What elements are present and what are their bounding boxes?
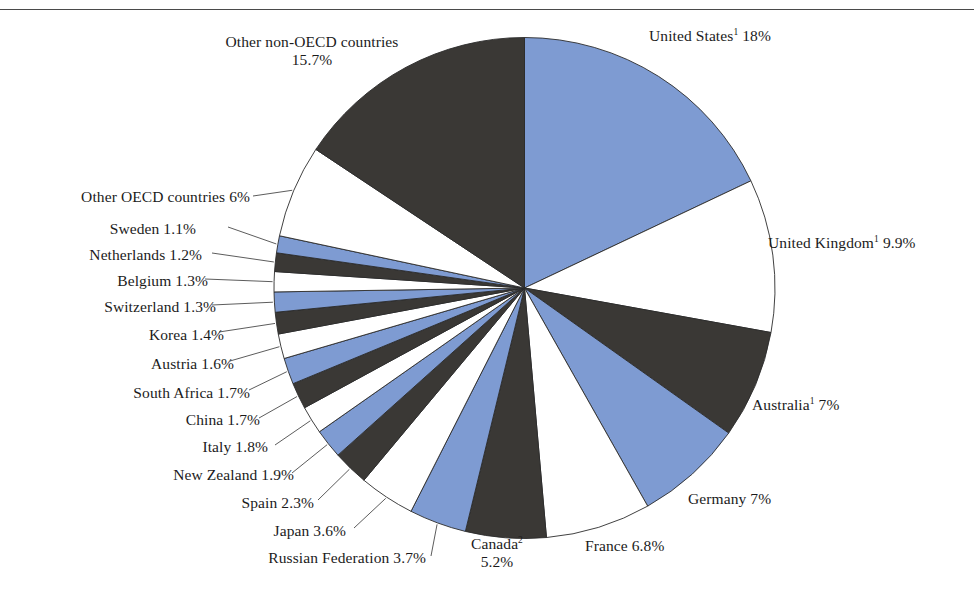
leader-line bbox=[253, 190, 292, 196]
label-text: Netherlands 1.2% bbox=[89, 246, 202, 263]
slice-label-switzerland: Switzerland 1.3% bbox=[20, 298, 216, 316]
slice-label-south-africa: South Africa 1.7% bbox=[20, 384, 250, 402]
label-value: 15.7% bbox=[178, 51, 446, 69]
label-value: 18% bbox=[742, 27, 771, 44]
leader-line bbox=[275, 421, 310, 445]
label-text: Japan 3.6% bbox=[274, 522, 346, 539]
pie-slices bbox=[274, 38, 775, 539]
label-text: Germany 7% bbox=[688, 490, 771, 507]
leader-line bbox=[318, 469, 349, 500]
slice-label-france: France 6.8% bbox=[585, 537, 664, 555]
label-text: South Africa 1.7% bbox=[133, 384, 250, 401]
label-text: United States bbox=[649, 27, 733, 44]
slice-label-austria: Austria 1.6% bbox=[20, 355, 234, 373]
footnote-marker: 1 bbox=[874, 234, 879, 244]
slice-label-korea: Korea 1.4% bbox=[20, 326, 224, 344]
label-text: Spain 2.3% bbox=[242, 494, 314, 511]
slice-label-australia: Australia1 7% bbox=[752, 396, 839, 414]
footnote-marker: 1 bbox=[733, 27, 738, 37]
label-text: Australia bbox=[752, 396, 810, 413]
slice-label-japan: Japan 3.6% bbox=[20, 522, 346, 540]
label-text: Austria 1.6% bbox=[151, 355, 234, 372]
leader-line bbox=[354, 498, 386, 528]
slice-label-netherlands: Netherlands 1.2% bbox=[20, 246, 202, 264]
label-text: Korea 1.4% bbox=[149, 326, 224, 343]
leader-line bbox=[431, 524, 437, 556]
slice-label-italy: Italy 1.8% bbox=[20, 438, 268, 456]
label-text: New Zealand 1.9% bbox=[173, 466, 294, 483]
slice-label-united-kingdom: United Kingdom1 9.9% bbox=[768, 234, 916, 252]
label-text: Belgium 1.3% bbox=[117, 272, 208, 289]
footnote-marker: 1 bbox=[810, 396, 815, 406]
figure-canvas: United States1 18% United Kingdom1 9.9% … bbox=[0, 0, 974, 614]
slice-label-united-states: United States1 18% bbox=[649, 27, 771, 45]
slice-label-belgium: Belgium 1.3% bbox=[20, 272, 208, 290]
leader-line bbox=[259, 397, 297, 418]
slice-label-germany: Germany 7% bbox=[688, 490, 771, 508]
label-value: 9.9% bbox=[883, 234, 916, 251]
label-text: Switzerland 1.3% bbox=[104, 298, 216, 315]
leader-line bbox=[228, 227, 276, 244]
leader-line bbox=[212, 253, 274, 262]
leader-line bbox=[219, 323, 275, 332]
leader-line bbox=[249, 372, 287, 390]
label-text: Other OECD countries 6% bbox=[81, 188, 250, 205]
slice-label-china: China 1.7% bbox=[20, 411, 260, 429]
slice-label-other-oecd-countries: Other OECD countries 6% bbox=[10, 188, 250, 206]
label-text: Italy 1.8% bbox=[202, 438, 268, 455]
leader-line bbox=[292, 445, 327, 473]
slice-label-spain: Spain 2.3% bbox=[20, 494, 314, 512]
slice-label-russian-federation: Russian Federation 3.7% bbox=[20, 549, 426, 567]
slice-label-new-zealand: New Zealand 1.9% bbox=[20, 466, 294, 484]
label-text: Other non-OECD countries bbox=[226, 33, 399, 50]
label-text: France 6.8% bbox=[585, 537, 664, 554]
label-text: Sweden 1.1% bbox=[110, 220, 196, 237]
slice-label-other-non-oecd-countries: Other non-OECD countries 15.7% bbox=[178, 33, 446, 70]
label-text: Canada bbox=[471, 535, 518, 552]
label-text: Russian Federation 3.7% bbox=[268, 549, 426, 566]
slice-label-canada: Canada2 5.2% bbox=[442, 535, 552, 572]
label-text: United Kingdom bbox=[768, 234, 874, 251]
label-value: 5.2% bbox=[442, 553, 552, 571]
label-value: 7% bbox=[819, 396, 840, 413]
leader-line bbox=[205, 279, 273, 282]
slice-label-sweden: Sweden 1.1% bbox=[20, 220, 196, 238]
leader-line bbox=[212, 302, 273, 305]
label-text: China 1.7% bbox=[186, 411, 260, 428]
leader-line bbox=[230, 347, 279, 361]
footnote-marker: 2 bbox=[518, 535, 523, 545]
